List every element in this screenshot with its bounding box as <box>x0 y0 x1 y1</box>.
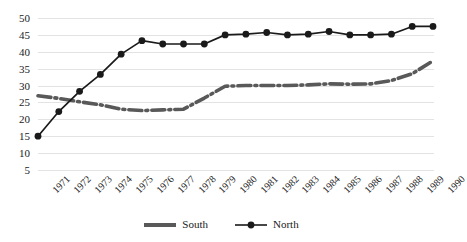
data-point-marker <box>430 23 437 30</box>
data-point-marker <box>55 108 62 115</box>
x-tick-label: 1979 <box>217 174 238 195</box>
y-tick-label: 25 <box>19 97 30 108</box>
x-axis-labels: 1971197219731974197519761977197819791980… <box>38 172 434 218</box>
data-point-marker <box>118 51 125 58</box>
data-point-marker <box>388 31 395 38</box>
x-tick-label: 1983 <box>300 174 321 195</box>
y-tick-label: 30 <box>19 80 30 91</box>
data-point-marker <box>201 41 208 48</box>
x-tick-label: 1977 <box>176 174 197 195</box>
y-axis-labels: 5101520253035404550 <box>0 18 34 170</box>
x-tick-label: 1972 <box>72 174 93 195</box>
y-tick-label: 5 <box>25 165 31 176</box>
x-tick-label: 1985 <box>342 174 363 195</box>
data-point-marker <box>263 29 270 36</box>
legend-item-south: South <box>143 219 208 230</box>
gridline <box>38 170 434 171</box>
y-tick-label: 35 <box>19 63 30 74</box>
data-point-marker <box>159 41 166 48</box>
x-tick-label: 1971 <box>51 174 72 195</box>
legend-swatch-south <box>143 220 177 230</box>
legend-label-south: South <box>182 219 208 230</box>
chart-legend: South North <box>0 219 442 230</box>
x-tick-label: 1976 <box>155 174 176 195</box>
x-tick-label: 1989 <box>425 174 446 195</box>
data-point-marker <box>139 37 146 44</box>
data-point-marker <box>305 31 312 38</box>
x-tick-label: 1980 <box>238 174 259 195</box>
series-line-north <box>38 26 433 136</box>
series-layer <box>38 18 434 170</box>
y-tick-label: 50 <box>19 13 30 24</box>
data-point-marker <box>284 31 291 38</box>
x-tick-label: 1990 <box>446 174 467 195</box>
data-point-marker <box>367 31 374 38</box>
x-tick-label: 1982 <box>280 174 301 195</box>
y-tick-label: 10 <box>19 148 30 159</box>
data-point-marker <box>409 23 416 30</box>
y-tick-label: 45 <box>19 29 30 40</box>
y-tick-label: 15 <box>19 131 30 142</box>
data-point-marker <box>180 41 187 48</box>
plot-area <box>38 18 434 170</box>
x-tick-label: 1978 <box>196 174 217 195</box>
series-line-south <box>38 61 433 111</box>
data-point-marker <box>346 31 353 38</box>
legend-swatch-north <box>234 220 268 230</box>
x-tick-label: 1974 <box>113 174 134 195</box>
x-tick-label: 1981 <box>259 174 280 195</box>
y-tick-label: 40 <box>19 46 30 57</box>
x-tick-label: 1973 <box>92 174 113 195</box>
data-point-marker <box>76 88 83 95</box>
x-tick-label: 1975 <box>134 174 155 195</box>
x-tick-label: 1987 <box>383 174 404 195</box>
data-point-marker <box>222 31 229 38</box>
legend-label-north: North <box>273 219 299 230</box>
data-point-marker <box>35 133 42 140</box>
data-point-marker <box>242 31 249 38</box>
y-tick-label: 20 <box>19 114 30 125</box>
data-point-marker <box>97 71 104 78</box>
x-tick-label: 1984 <box>321 174 342 195</box>
x-tick-label: 1986 <box>363 174 384 195</box>
x-tick-label: 1988 <box>404 174 425 195</box>
legend-item-north: North <box>234 219 299 230</box>
data-point-marker <box>326 28 333 35</box>
